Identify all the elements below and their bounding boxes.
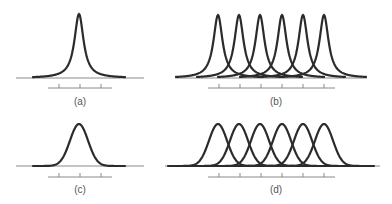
peak-curve bbox=[168, 124, 268, 166]
peak-curve bbox=[253, 124, 353, 166]
peak-curve bbox=[274, 124, 374, 166]
panel-label-b: (b) bbox=[270, 96, 282, 107]
peak-curves bbox=[33, 14, 125, 77]
panel-d: (d) bbox=[165, 124, 380, 195]
peak-curve bbox=[33, 14, 125, 77]
peak-curve bbox=[232, 124, 332, 166]
tick-ruler bbox=[208, 84, 335, 88]
tick-ruler bbox=[48, 173, 112, 177]
peak-curve bbox=[33, 124, 125, 166]
peak-curves bbox=[168, 124, 374, 166]
peak-curves bbox=[33, 124, 125, 166]
peak-curve bbox=[189, 124, 289, 166]
tick-ruler bbox=[208, 173, 335, 177]
panel-c: (c) bbox=[16, 124, 144, 195]
panel-label-c: (c) bbox=[74, 184, 86, 195]
tick-ruler bbox=[48, 84, 112, 88]
panel-a: (a) bbox=[16, 14, 144, 107]
spectral-line-diagram: (a) (b) (c) (d) bbox=[0, 0, 392, 204]
peak-curve bbox=[210, 124, 310, 166]
peak-curves bbox=[176, 15, 366, 77]
panel-label-a: (a) bbox=[74, 96, 86, 107]
panel-label-d: (d) bbox=[270, 184, 282, 195]
panel-b: (b) bbox=[175, 15, 367, 107]
